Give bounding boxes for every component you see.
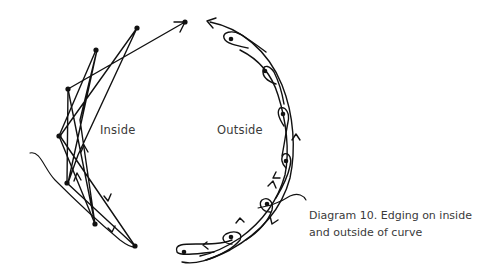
stitch-loop — [276, 154, 291, 198]
inside-label: Inside — [100, 123, 135, 137]
outside-fabric-edge — [258, 194, 306, 208]
diagram-caption: Diagram 10. Edging on inside and outside… — [309, 207, 472, 241]
stitch-point — [56, 133, 61, 138]
stitch-point — [132, 243, 137, 248]
stitch-point — [92, 221, 97, 226]
stitch-point — [93, 47, 98, 52]
outside-inner-curve — [200, 50, 287, 256]
arrow-icon — [273, 172, 280, 178]
caption-line-2: and outside of curve — [309, 224, 472, 241]
arrow-icon — [104, 194, 111, 201]
outside-edging-path — [176, 22, 306, 263]
stitch-point — [281, 112, 286, 117]
stitch-point — [182, 250, 187, 255]
arrow-icon — [203, 242, 208, 249]
arrow-icon — [268, 181, 276, 188]
stitch-point — [229, 235, 234, 240]
stitch-point — [229, 37, 234, 42]
outside-main-curve — [182, 22, 293, 263]
stitch-point — [265, 202, 270, 207]
caption-line-1: Diagram 10. Edging on inside — [309, 207, 472, 224]
stitch-point — [64, 180, 69, 185]
stitch-point — [134, 25, 139, 30]
arrow-icon — [236, 218, 244, 223]
arrow-icon — [270, 216, 278, 224]
stitch-point — [65, 86, 70, 91]
outside-label: Outside — [217, 123, 263, 137]
stitch-point — [263, 69, 268, 74]
stitch-point — [284, 159, 289, 164]
